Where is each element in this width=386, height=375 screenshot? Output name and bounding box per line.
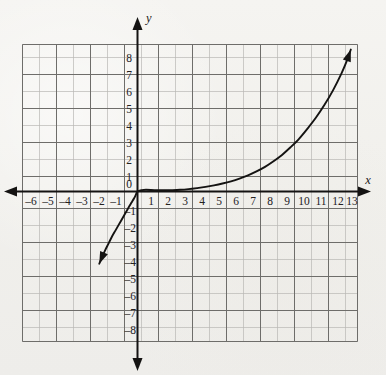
y-axis-down-arrow <box>133 358 143 371</box>
x-tick-label: 12 <box>332 195 344 207</box>
y-axis-label: y <box>144 11 152 25</box>
x-tick-label: 3 <box>182 195 188 207</box>
y-tick-labels-negative: –1 –2 –3 –4 –5 –6 –7 –8 <box>124 205 137 336</box>
x-tick-label: 8 <box>267 195 273 207</box>
y-tick-label: –6 <box>124 290 137 302</box>
y-tick-label: –4 <box>124 256 137 268</box>
x-tick-label: 9 <box>284 195 290 207</box>
y-tick-label: 4 <box>126 120 132 132</box>
x-tick-label: 1 <box>148 195 154 207</box>
y-tick-label: 5 <box>126 103 132 115</box>
y-tick-label: –3 <box>124 239 137 251</box>
x-tick-label: –5 <box>41 195 54 207</box>
x-tick-label: –6 <box>24 195 37 207</box>
x-tick-label: –2 <box>92 195 105 207</box>
y-tick-label: –7 <box>124 307 137 319</box>
y-tick-label: 7 <box>126 69 132 81</box>
grid-major-lines <box>23 45 358 342</box>
y-tick-label: 3 <box>126 137 132 149</box>
y-tick-label: 2 <box>126 154 132 166</box>
curve-end-arrow <box>343 50 351 63</box>
y-tick-label: 1 <box>126 171 132 183</box>
x-tick-label: –4 <box>58 195 71 207</box>
x-tick-label: 6 <box>233 195 239 207</box>
x-tick-label: 2 <box>165 195 171 207</box>
y-tick-label: –5 <box>124 273 137 285</box>
x-tick-label: 10 <box>298 195 310 207</box>
y-tick-labels-positive: 8 7 6 5 4 3 2 1 <box>126 52 132 183</box>
y-axis-up-arrow <box>133 17 143 30</box>
y-tick-label: –2 <box>124 222 137 234</box>
y-tick-label: –8 <box>124 324 137 336</box>
grid-minor-lines <box>23 45 358 342</box>
x-axis-right-arrow <box>358 187 371 197</box>
x-tick-label: 7 <box>250 195 256 207</box>
x-tick-label: 11 <box>315 195 326 207</box>
x-tick-labels-positive: 1 2 3 4 5 6 7 8 9 10 11 12 13 <box>148 195 358 207</box>
x-axis-left-arrow <box>4 187 17 197</box>
x-tick-label: –3 <box>75 195 88 207</box>
y-tick-label: 8 <box>126 52 132 64</box>
x-axis-label: x <box>364 173 371 187</box>
x-tick-label: 13 <box>346 195 358 207</box>
x-tick-label: –1 <box>109 195 122 207</box>
x-tick-label: 4 <box>199 195 205 207</box>
coordinate-graph: y x 0 –6 –5 –4 –3 –2 –1 1 2 3 4 5 6 7 8 … <box>0 0 386 375</box>
x-tick-label: 5 <box>216 195 222 207</box>
curve-start-arrow <box>99 251 108 264</box>
y-tick-label: 6 <box>126 86 132 98</box>
